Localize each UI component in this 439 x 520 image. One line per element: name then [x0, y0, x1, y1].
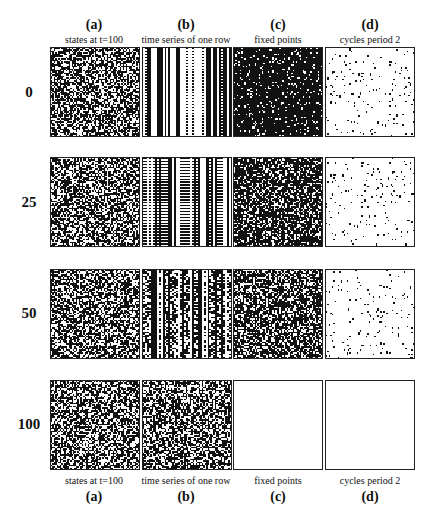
panel-row0-colb — [142, 47, 232, 137]
row-label-25: 25 — [14, 194, 44, 211]
col-c-letter-bottom: (c) — [232, 489, 324, 505]
panel-row100-colb — [142, 380, 232, 470]
row-label-50: 50 — [14, 305, 44, 322]
col-d-subtitle-top: cycles period 2 — [315, 34, 425, 45]
col-d-letter-top: (d) — [324, 17, 416, 33]
row-label-100: 100 — [14, 416, 44, 433]
panel-row25-cola — [50, 157, 140, 247]
panel-row0-cola — [50, 47, 140, 137]
panel-row50-cold — [325, 269, 415, 359]
row-label-0: 0 — [14, 84, 44, 101]
panel-row100-colc — [233, 380, 323, 470]
panel-row25-colc — [233, 157, 323, 247]
panel-row0-cold — [325, 47, 415, 137]
panel-row100-cold — [325, 380, 415, 470]
panel-row25-colb — [142, 157, 232, 247]
col-a-letter-top: (a) — [48, 17, 140, 33]
col-b-letter-top: (b) — [140, 17, 232, 33]
col-d-letter-bottom: (d) — [324, 489, 416, 505]
panel-row50-colc — [233, 269, 323, 359]
col-b-letter-bottom: (b) — [140, 489, 232, 505]
panel-row100-cola — [50, 380, 140, 470]
col-d-subtitle-bottom: cycles period 2 — [315, 475, 425, 486]
col-a-letter-bottom: (a) — [48, 489, 140, 505]
panel-row50-cola — [50, 269, 140, 359]
panel-row0-colc — [233, 47, 323, 137]
panel-row25-cold — [325, 157, 415, 247]
col-c-letter-top: (c) — [232, 17, 324, 33]
panel-row50-colb — [142, 269, 232, 359]
